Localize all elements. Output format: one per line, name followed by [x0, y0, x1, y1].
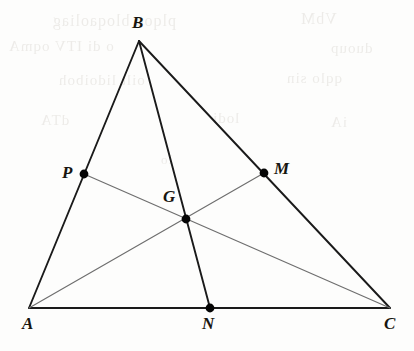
- label-p: P: [62, 164, 72, 181]
- point-marker-p: [80, 170, 89, 179]
- label-a: A: [22, 315, 33, 332]
- median-BN: [139, 41, 210, 308]
- median-PC: [84, 174, 390, 308]
- geometry-figure: plqoo bloqaoliagVbMo di ITV oqmAduoupoil…: [0, 0, 414, 351]
- median-AM: [29, 173, 264, 308]
- label-n: N: [202, 315, 214, 332]
- point-marker-g: [182, 215, 191, 224]
- point-marker-n: [206, 304, 215, 313]
- label-b: B: [132, 14, 143, 31]
- label-g: G: [163, 188, 175, 205]
- label-c: C: [384, 315, 395, 332]
- point-marker-m: [260, 169, 269, 178]
- label-m: M: [274, 160, 289, 177]
